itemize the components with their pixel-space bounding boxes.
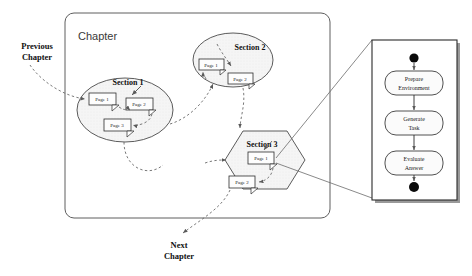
svg-text:Chapter: Chapter: [22, 52, 52, 62]
section-2-title: Section 2: [235, 43, 266, 52]
page-label: Page 1: [254, 156, 268, 161]
start-node-icon: [409, 53, 418, 62]
previous-chapter-connector: [30, 65, 85, 99]
section-3-group[interactable]: Section 3 Page 1 Page 2: [225, 131, 305, 194]
section-2-group[interactable]: Section 2 Page 1 Page 2: [193, 33, 273, 89]
section-1-title: Section 1: [113, 78, 144, 87]
previous-chapter-label: Previous Chapter: [21, 41, 53, 62]
section2-to-section3-connector: [240, 88, 244, 128]
activity-label-line1: Prepare: [405, 76, 424, 82]
activity-shape: [385, 151, 443, 175]
activity-label-line2: Task: [408, 125, 419, 131]
end-node-icon: [409, 182, 419, 192]
activity-shape: [385, 111, 443, 135]
page-label: Page 2: [132, 102, 146, 107]
activity-generate-task[interactable]: Generate Task: [385, 111, 443, 135]
activity-prepare-environment[interactable]: Prepare Environment: [385, 71, 443, 95]
page-label: Page 1: [204, 63, 218, 68]
section-3-title: Section 3: [247, 140, 278, 149]
next-chapter-label: Next Chapter: [164, 240, 194, 261]
callout-line-top: [276, 40, 372, 158]
section-3-page-2[interactable]: Page 2: [229, 176, 258, 194]
page-label: Page 1: [95, 97, 109, 102]
svg-text:Chapter: Chapter: [164, 251, 194, 261]
page-fold-icon: [251, 188, 258, 194]
section3-inbound-connector: [205, 160, 226, 163]
page-label: Page 2: [235, 180, 249, 185]
chapter-title: Chapter: [78, 30, 117, 42]
page-fold-icon: [249, 84, 255, 89]
page-label: Page 3: [110, 123, 124, 128]
activity-label-line1: Generate: [403, 116, 425, 122]
section1-to-section2-connector: [170, 84, 213, 124]
activity-label-line2: Answer: [405, 165, 424, 171]
activity-panel[interactable]: Prepare Environment Generate Task Evalua…: [372, 40, 460, 203]
diagram-canvas: Chapter Section 1 Page 1 Page 2 Pa: [0, 0, 472, 276]
next-chapter-connector: [183, 190, 230, 233]
section-1-group[interactable]: Section 1 Page 1 Page 2 Page 3: [77, 78, 173, 142]
structure-diagram: Chapter Section 1 Page 1 Page 2 Pa: [0, 0, 472, 276]
activity-shape: [385, 71, 443, 95]
activity-evaluate-answer[interactable]: Evaluate Answer: [385, 151, 443, 175]
svg-text:Previous: Previous: [21, 41, 53, 51]
activity-label-line2: Environment: [398, 85, 430, 91]
activity-label-line1: Evaluate: [404, 156, 425, 162]
page-label: Page 2: [233, 77, 247, 82]
svg-text:Next: Next: [171, 240, 188, 250]
section1-internal-return: [124, 142, 163, 171]
